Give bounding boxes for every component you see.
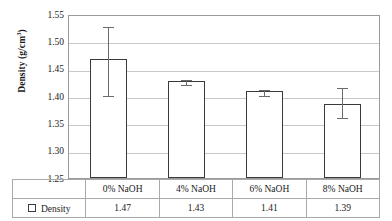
category-cell: 0% NaOH bbox=[86, 180, 159, 199]
error-bar-cap-lower bbox=[103, 96, 114, 97]
category-cell: 6% NaOH bbox=[233, 180, 306, 199]
legend-label: Density bbox=[41, 203, 71, 213]
value-cell: 1.43 bbox=[159, 199, 232, 218]
plot-area bbox=[68, 15, 380, 179]
value-cell: 1.39 bbox=[306, 199, 379, 218]
y-tick-label: 1.35 bbox=[28, 119, 64, 129]
table-corner-blank bbox=[13, 180, 86, 199]
value-cell: 1.41 bbox=[233, 199, 306, 218]
y-tick-label: 1.55 bbox=[28, 10, 64, 20]
error-bar-cap-upper bbox=[181, 80, 192, 81]
y-tick-label: 1.30 bbox=[28, 146, 64, 156]
error-bar-cap-upper bbox=[259, 90, 270, 91]
y-tick-label: 1.50 bbox=[28, 37, 64, 47]
error-bar-cap-upper bbox=[337, 88, 348, 89]
y-tick-label: 1.45 bbox=[28, 64, 64, 74]
bar-chart: Density (g/cm3) 1.55 1.50 1.45 1.40 1.35… bbox=[0, 0, 392, 221]
y-tick-label: 1.40 bbox=[28, 92, 64, 102]
bar bbox=[168, 81, 205, 178]
error-bar-cap-upper bbox=[103, 27, 114, 28]
value-cell: 1.47 bbox=[86, 199, 159, 218]
table-row-categories: 0% NaOH 4% NaOH 6% NaOH 8% NaOH bbox=[13, 180, 380, 199]
error-bar-cap-lower bbox=[181, 85, 192, 86]
y-axis-title-superscript: 3 bbox=[15, 32, 22, 35]
error-bar-line bbox=[342, 88, 343, 118]
table-row-values: Density 1.47 1.43 1.41 1.39 bbox=[13, 199, 380, 218]
gridline bbox=[69, 43, 379, 44]
category-cell: 8% NaOH bbox=[306, 180, 379, 199]
error-bar-cap-lower bbox=[337, 118, 348, 119]
legend-entry-density: Density bbox=[13, 199, 86, 218]
error-bar-line bbox=[108, 27, 109, 96]
category-cell: 4% NaOH bbox=[159, 180, 232, 199]
error-bar-cap-lower bbox=[259, 96, 270, 97]
data-table: 0% NaOH 4% NaOH 6% NaOH 8% NaOH Density … bbox=[12, 179, 380, 218]
bar bbox=[246, 91, 283, 178]
legend-swatch-icon bbox=[28, 204, 36, 212]
